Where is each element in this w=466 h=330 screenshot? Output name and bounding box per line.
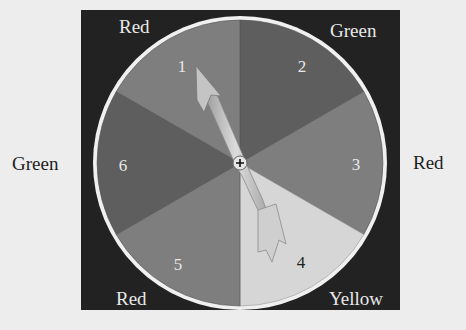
label-top-left: Red <box>119 17 150 36</box>
sector-number-5: 5 <box>174 255 183 274</box>
sector-number-6: 6 <box>119 156 128 175</box>
sector-number-4: 4 <box>297 253 306 272</box>
label-top-right: Green <box>330 21 376 40</box>
sector-number-3: 3 <box>352 155 361 174</box>
label-bottom-left: Red <box>116 289 147 308</box>
sector-number-2: 2 <box>298 57 307 76</box>
label-right: Red <box>413 153 444 172</box>
label-left: Green <box>12 154 58 173</box>
label-bottom-right: Yellow <box>329 289 383 308</box>
sector-number-1: 1 <box>178 57 187 76</box>
spinner-wheel: 1 2 3 4 5 6 <box>0 0 466 330</box>
